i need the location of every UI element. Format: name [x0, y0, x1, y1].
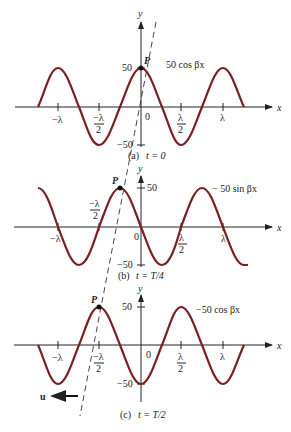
velocity-label: u [40, 391, 46, 402]
panel-a: y x −λ −λ 2 0 λ 2 λ 50 −50 P 50 cos βx (… [15, 8, 282, 162]
tick-y-50: 50 [122, 301, 132, 312]
tick-zero: 0 [145, 111, 150, 122]
svg-text:2: 2 [93, 210, 98, 221]
point-p-label: P [91, 294, 98, 305]
tick-zero: 0 [134, 231, 139, 242]
point-p-label: P [112, 175, 119, 186]
caption-a-time: t = 0 [146, 150, 166, 161]
tick-y-50: 50 [122, 62, 132, 73]
panel-c: y x −λ −λ 2 0 λ 2 λ 50 −50 P −50 cos βx … [14, 283, 282, 421]
caption-b-letter: (b) [118, 270, 130, 282]
svg-text:2: 2 [178, 124, 183, 135]
caption-b-time: t = T/4 [136, 270, 164, 281]
y-axis-label: y [137, 283, 143, 294]
x-axis-label: x [276, 222, 282, 233]
wave-propagation-diagram: y x −λ −λ 2 0 λ 2 λ 50 −50 P 50 cos βx (… [0, 0, 291, 432]
tick-neg-lambda: −λ [52, 114, 63, 125]
tick-neg-lambda: −λ [50, 233, 61, 244]
tick-lambda: λ [220, 351, 225, 362]
tick-y-neg-50: −50 [117, 378, 133, 389]
tick-half-lambda: λ [178, 112, 183, 123]
svg-text:2: 2 [178, 363, 183, 374]
point-p-marker [97, 305, 102, 310]
tick-half-lambda: λ [178, 351, 183, 362]
x-axis-label: x [276, 340, 282, 351]
caption-a-letter: (a) [128, 150, 139, 162]
svg-text:2: 2 [179, 244, 184, 255]
panel-b: y x −λ −λ 2 0 λ 2 λ 50 −50 P − 50 sin βx… [14, 163, 282, 282]
tick-y-50: 50 [147, 182, 157, 193]
y-axis-label: y [137, 163, 143, 174]
tick-neg-lambda: −λ [52, 352, 63, 363]
x-axis-label: x [276, 102, 282, 113]
tick-y-neg-50: −50 [117, 139, 133, 150]
caption-c-time: t = T/2 [138, 409, 166, 420]
curve-label-b: − 50 sin βx [212, 183, 257, 194]
point-p-trajectory-line [80, 22, 156, 416]
tick-zero: 0 [146, 349, 151, 360]
point-p-marker [139, 66, 144, 71]
tick-lambda: λ [220, 112, 225, 123]
y-axis-label: y [137, 8, 143, 19]
tick-neg-half-lambda: −λ [93, 112, 104, 123]
svg-text:2: 2 [96, 363, 101, 374]
tick-neg-half-lambda: −λ [93, 351, 104, 362]
curve-label-c: −50 cos βx [196, 304, 240, 315]
caption-c-letter: (c) [120, 409, 131, 421]
point-p-label: P [144, 55, 151, 66]
svg-text:2: 2 [96, 124, 101, 135]
tick-neg-half-lambda: −λ [89, 198, 100, 209]
tick-y-neg-50: −50 [117, 259, 133, 270]
point-p-marker [118, 186, 123, 191]
curve-label-a: 50 cos βx [166, 59, 204, 70]
